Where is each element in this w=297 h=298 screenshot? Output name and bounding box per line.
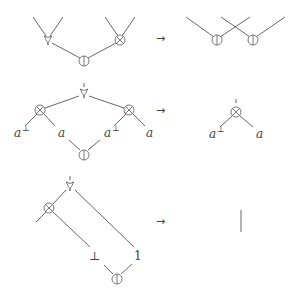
label-perp: ⊥ <box>112 124 120 133</box>
wire <box>133 114 145 126</box>
wire <box>105 17 118 36</box>
wire <box>186 17 214 37</box>
tensor-node <box>35 105 45 115</box>
cut-node <box>212 35 222 45</box>
wire <box>53 190 66 204</box>
cut-node <box>79 150 89 160</box>
label-a: a <box>146 126 153 140</box>
wire <box>50 17 63 36</box>
wire <box>44 114 55 126</box>
tensor-node <box>44 203 54 213</box>
wire <box>52 43 80 58</box>
par-node <box>66 182 74 191</box>
wire <box>75 190 134 247</box>
wire <box>122 17 135 36</box>
label-a: a <box>58 126 65 140</box>
label-a: a <box>209 127 216 141</box>
par-node <box>44 36 52 45</box>
proof-net-diagram: → a ⊥ a a ⊥ <box>0 0 297 298</box>
wire <box>89 96 124 108</box>
tensor-node <box>115 35 125 45</box>
wire <box>53 212 90 247</box>
rule-1-rhs <box>186 17 285 45</box>
cut-node <box>79 56 89 66</box>
rule-1: → <box>33 17 285 66</box>
rewrite-arrow: → <box>156 215 165 228</box>
label-a: a <box>14 126 21 140</box>
rule-3: ⊥ 1 → <box>36 176 241 284</box>
wire <box>121 264 132 274</box>
wire <box>45 96 79 108</box>
label-a: a <box>104 126 111 140</box>
label-a: a <box>256 127 263 141</box>
wire <box>256 17 285 37</box>
rule-3-lhs: ⊥ 1 <box>36 176 142 284</box>
wire <box>88 140 100 150</box>
label-one: 1 <box>134 249 142 263</box>
wire <box>104 265 113 274</box>
rewrite-arrow: → <box>156 32 165 45</box>
wire <box>36 212 46 222</box>
tensor-node <box>124 105 134 115</box>
tensor-node <box>231 107 241 117</box>
rewrite-arrow: → <box>156 104 165 117</box>
rule-2: a ⊥ a a ⊥ a → a ⊥ a <box>14 83 263 160</box>
wire <box>33 17 46 36</box>
cut-node <box>248 35 258 45</box>
wire <box>69 140 80 150</box>
rule-2-rhs: a ⊥ a <box>209 99 263 141</box>
wire <box>88 43 116 58</box>
rule-1-lhs <box>33 17 135 66</box>
label-perp: ⊥ <box>22 124 30 133</box>
wire <box>240 116 253 127</box>
rule-2-lhs: a ⊥ a a ⊥ a <box>14 83 153 160</box>
cut-node <box>112 274 122 284</box>
label-perp: ⊥ <box>217 125 225 134</box>
label-bottom: ⊥ <box>89 249 100 263</box>
par-node <box>80 89 88 98</box>
